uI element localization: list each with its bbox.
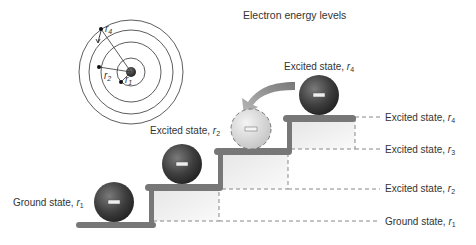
riser-2 xyxy=(218,152,223,189)
diagram-title: Electron energy levels xyxy=(243,9,346,21)
level-label-r2: Excited state, r2 xyxy=(385,183,455,195)
tread-ground xyxy=(76,222,156,228)
orbit-label-r2: r2 xyxy=(104,70,111,82)
electron-r2-step xyxy=(162,144,202,184)
label-excited-r2-ball: Excited state, r2 xyxy=(150,125,220,137)
tread-1 xyxy=(145,184,223,191)
label-ground-state-ball: Ground state, r1 xyxy=(13,197,84,209)
atom-orbits: r4 r2 r1 xyxy=(79,20,183,124)
electron-r4 xyxy=(299,75,339,115)
minus-sign-icon xyxy=(108,200,120,204)
minus-sign-icon xyxy=(313,93,325,97)
minus-sign-icon xyxy=(176,162,188,166)
level-label-r4: Excited state, r4 xyxy=(385,112,455,124)
tread-3 xyxy=(283,115,356,122)
riser-1 xyxy=(149,188,154,228)
level-label-r3: Excited state, r3 xyxy=(385,144,455,156)
energy-diagram: Electron energy levels r4 r2 r1 xyxy=(0,0,476,245)
electron-dot-r4 xyxy=(99,27,103,31)
riser-3 xyxy=(287,118,292,151)
level-label-r1: Ground state, r1 xyxy=(385,216,456,228)
step-fill-2 xyxy=(222,153,288,189)
radius-r4 xyxy=(101,29,131,72)
minus-sign-icon xyxy=(245,127,257,131)
electron-ground xyxy=(94,182,134,222)
step-fill-3 xyxy=(291,122,355,149)
step-fill-1 xyxy=(153,189,219,221)
electron-dot-r2 xyxy=(97,65,101,69)
electron-ghost-r2 xyxy=(231,109,271,149)
electron-dot-r1 xyxy=(119,80,123,84)
label-excited-r4-ball: Excited state, r4 xyxy=(284,61,354,73)
